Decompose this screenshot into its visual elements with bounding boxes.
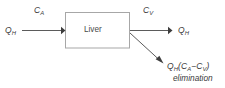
outflow-arrow-head — [168, 27, 173, 34]
inflow-rate-subscript: H — [12, 30, 16, 36]
elimination-close-paren: ) — [206, 61, 209, 71]
inflow-concentration-label: CA — [34, 6, 44, 15]
inflow-arrow-head — [61, 27, 66, 34]
outflow-concentration-label: CV — [143, 6, 153, 15]
elimination-term-v-subscript: V — [202, 66, 206, 72]
elimination-rate-symbol: Q — [167, 61, 174, 71]
inflow-rate-label: QH — [5, 26, 16, 35]
liver-node-label: Liver — [84, 26, 102, 34]
elimination-term-a-subscript: A — [187, 66, 191, 72]
hepatic-clearance-diagram: Liver QH CA CV QH QH(CA−CV) elimination — [0, 0, 225, 88]
outflow-rate-symbol: Q — [178, 25, 185, 35]
outflow-rate-label: QH — [178, 26, 189, 35]
elimination-expression: QH(CA−CV) — [167, 62, 209, 71]
inflow-rate-symbol: Q — [5, 25, 12, 35]
outflow-rate-subscript: H — [185, 30, 189, 36]
outflow-concentration-subscript: V — [149, 10, 153, 16]
elimination-arrow-line — [130, 33, 160, 61]
inflow-concentration-subscript: A — [40, 10, 44, 16]
elimination-caption: elimination — [173, 74, 213, 82]
elimination-rate-subscript: H — [174, 66, 178, 72]
